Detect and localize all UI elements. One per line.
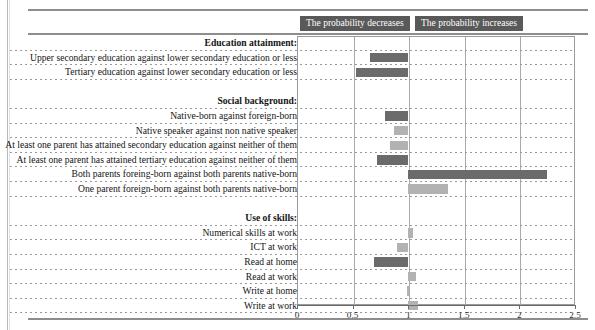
bar-native-born-against-foreign-born xyxy=(385,111,408,120)
row-plot-cell xyxy=(297,284,575,299)
x-tick-0-5 xyxy=(353,305,354,309)
bar-numerical-skills-at-work xyxy=(408,228,412,237)
middle-rule xyxy=(28,33,588,35)
x-tick-1 xyxy=(408,305,409,309)
row-plot-cell xyxy=(297,226,575,241)
row-label-read-at-work: Read at work xyxy=(246,270,297,285)
row-plot-cell xyxy=(297,124,575,139)
x-axis-line xyxy=(297,305,575,306)
group-heading-education-attainment: Education attainment: xyxy=(205,36,297,51)
chart-row: Tertiary education against lower seconda… xyxy=(10,65,575,80)
x-tick-label-2-5: 2.5 xyxy=(569,310,580,320)
chart-row: Numerical skills at work xyxy=(10,226,575,241)
chart-row: Both parents foreing-born against both p… xyxy=(10,167,575,182)
group-heading-row: Use of skills: xyxy=(10,211,575,226)
row-plot-cell xyxy=(297,255,575,270)
row-plot-cell xyxy=(297,240,575,255)
chart-row: Write at home xyxy=(10,284,575,299)
x-tick-label-0: 0 xyxy=(295,310,300,320)
chart-row: Read at work xyxy=(10,270,575,285)
row-plot-cell xyxy=(297,270,575,285)
bar-read-at-home xyxy=(374,257,408,266)
row-separator xyxy=(10,327,575,328)
group-heading-row: Education attainment: xyxy=(10,36,575,51)
row-label-at-least-one-parent-has-attained-tertiary-educat: At least one parent has attained tertiar… xyxy=(16,153,297,168)
group-heading-social-background: Social background: xyxy=(217,94,297,109)
spacer-row xyxy=(10,80,575,95)
row-label-at-least-one-parent-has-attained-secondary-educa: At least one parent has attained seconda… xyxy=(5,138,297,153)
chart-page: The probability decreases The probabilit… xyxy=(0,0,595,330)
bar-both-parents-foreing-born-against-both-parents-n xyxy=(408,170,547,179)
x-tick-label-0-5: 0.5 xyxy=(347,310,358,320)
x-tick-1-5 xyxy=(464,305,465,309)
chart-row: One parent foreign-born against both par… xyxy=(10,182,575,197)
row-label-native-speaker-against-non-native-speaker: Native speaker against non native speake… xyxy=(136,124,297,139)
bar-at-least-one-parent-has-attained-tertiary-educat xyxy=(377,155,408,164)
bar-write-at-home xyxy=(407,286,409,295)
chart-row: Native speaker against non native speake… xyxy=(10,124,575,139)
row-plot-cell xyxy=(297,109,575,124)
x-tick-label-1: 1 xyxy=(406,310,411,320)
x-tick-0 xyxy=(297,305,298,309)
chart-row: Upper secondary education against lower … xyxy=(10,51,575,66)
x-tick-2 xyxy=(519,305,520,309)
row-label-upper-secondary-education-against-lower-secondar: Upper secondary education against lower … xyxy=(30,51,297,66)
row-label-native-born-against-foreign-born: Native-born against foreign-born xyxy=(170,109,297,124)
chart-row: At least one parent has attained tertiar… xyxy=(10,153,575,168)
row-plot-cell xyxy=(297,182,575,197)
chart-row: Read at home xyxy=(10,255,575,270)
group-heading-row: Social background: xyxy=(10,94,575,109)
gridline-2-5 xyxy=(576,37,577,306)
row-plot-cell xyxy=(297,153,575,168)
row-label-write-at-home: Write at home xyxy=(243,284,298,299)
chart-row: Native-born against foreign-born xyxy=(10,109,575,124)
row-label-one-parent-foreign-born-against-both-parents-nat: One parent foreign-born against both par… xyxy=(78,182,297,197)
row-label-numerical-skills-at-work: Numerical skills at work xyxy=(202,226,297,241)
x-tick-label-1-5: 1.5 xyxy=(458,310,469,320)
chart-row: At least one parent has attained seconda… xyxy=(10,138,575,153)
bar-read-at-work xyxy=(408,272,416,281)
chart-rows: Education attainment:Upper secondary edu… xyxy=(10,36,575,305)
legend-probability-decreases: The probability decreases xyxy=(300,16,410,31)
legend-probability-increases: The probability increases xyxy=(415,16,523,31)
spacer-row xyxy=(10,313,575,328)
row-label-write-at-work: Write at work xyxy=(244,299,297,314)
row-label-read-at-home: Read at home xyxy=(244,255,297,270)
bar-at-least-one-parent-has-attained-secondary-educa xyxy=(390,141,408,150)
row-plot-cell xyxy=(297,51,575,66)
row-plot-cell xyxy=(297,167,575,182)
bar-tertiary-education-against-lower-secondary-educa xyxy=(356,68,408,77)
row-label-ict-at-work: ICT at work xyxy=(250,240,297,255)
chart-row: ICT at work xyxy=(10,240,575,255)
x-tick-2-5 xyxy=(575,305,576,309)
row-plot-cell xyxy=(297,138,575,153)
row-plot-cell xyxy=(297,65,575,80)
top-rule xyxy=(28,9,588,11)
row-label-tertiary-education-against-lower-secondary-educa: Tertiary education against lower seconda… xyxy=(65,65,297,80)
bar-ict-at-work xyxy=(397,243,408,252)
group-heading-use-of-skills: Use of skills: xyxy=(245,211,297,226)
spacer-row xyxy=(10,197,575,212)
row-label-both-parents-foreing-born-against-both-parents-n: Both parents foreing-born against both p… xyxy=(72,167,297,182)
x-tick-label-2: 2 xyxy=(517,310,522,320)
bar-one-parent-foreign-born-against-both-parents-nat xyxy=(408,184,448,193)
page-edge-line xyxy=(7,0,8,330)
bar-native-speaker-against-non-native-speaker xyxy=(394,126,408,135)
bar-upper-secondary-education-against-lower-secondar xyxy=(370,53,408,62)
